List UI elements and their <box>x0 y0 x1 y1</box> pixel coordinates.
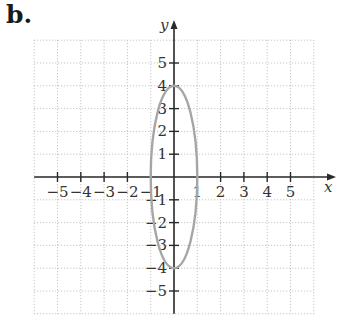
x-tick-label: −4 <box>70 183 92 201</box>
y-tick-label: 1 <box>157 145 167 163</box>
x-tick-label: −2 <box>116 183 138 201</box>
x-tick-label: 4 <box>262 183 272 201</box>
coordinate-plane: −5−4−3−2−112345−5−4−3−2−112345 x y <box>0 0 338 321</box>
x-tick-label: 5 <box>286 183 296 201</box>
x-tick-label: −3 <box>93 183 115 201</box>
y-tick-label: −5 <box>145 282 167 300</box>
y-axis-label: y <box>159 16 169 34</box>
x-tick-label: 2 <box>216 183 226 201</box>
figure: b. −5−4−3−2−112345−5−4−3−2−112345 x y <box>0 0 338 321</box>
x-tick-label: −5 <box>46 183 68 201</box>
y-tick-label: −1 <box>145 191 167 209</box>
y-tick-label: −4 <box>145 259 167 277</box>
y-tick-label: 5 <box>157 54 167 72</box>
x-tick-label: 3 <box>239 183 249 201</box>
y-tick-label: 2 <box>157 122 167 140</box>
x-axis-label: x <box>324 178 333 196</box>
y-axis-arrow-icon <box>171 20 178 29</box>
